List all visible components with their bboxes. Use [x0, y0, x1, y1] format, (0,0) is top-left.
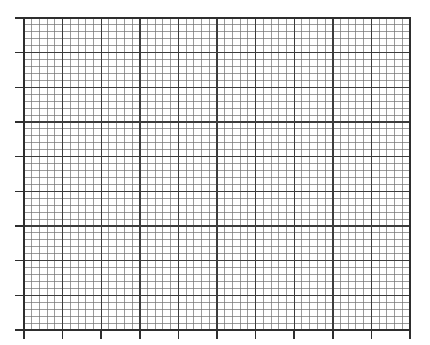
graph-paper-canvas: [0, 0, 430, 345]
grid-chart: [0, 0, 430, 345]
